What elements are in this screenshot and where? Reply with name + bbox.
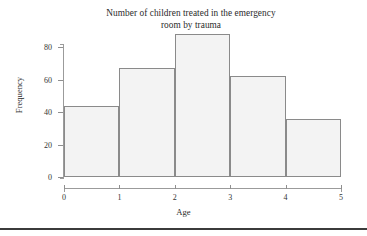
x-tick-label: 4 (276, 193, 296, 202)
y-tick-mark (58, 47, 63, 48)
x-tick-label: 3 (220, 193, 240, 202)
histogram-bar (64, 106, 119, 178)
histogram-bar (230, 76, 285, 177)
x-tick-mark (230, 185, 231, 189)
y-tick-label: 20 (28, 141, 52, 150)
y-tick-label: 80 (28, 43, 52, 52)
plot-area (64, 40, 341, 177)
x-axis-title: Age (0, 207, 367, 217)
histogram-bar (286, 119, 341, 178)
page-bottom-rule (0, 228, 367, 230)
y-tick-label: 60 (28, 76, 52, 85)
x-tick-mark (286, 185, 287, 189)
x-tick-label: 1 (109, 193, 129, 202)
x-tick-mark (119, 185, 120, 189)
x-tick-mark (64, 185, 65, 189)
y-tick-mark (58, 112, 63, 113)
x-tick-label: 2 (165, 193, 185, 202)
histogram-bar (119, 68, 174, 177)
x-tick-mark (175, 185, 176, 189)
x-tick-label: 0 (54, 193, 74, 202)
y-tick-label: 0 (28, 173, 52, 182)
y-tick-mark (58, 177, 63, 178)
y-tick-label: 40 (28, 108, 52, 117)
y-tick-mark (58, 145, 63, 146)
y-axis-title: Frequency (14, 50, 24, 140)
x-tick-mark (341, 185, 342, 189)
histogram-figure: Number of children treated in the emerge… (0, 0, 367, 236)
x-tick-label: 5 (331, 193, 351, 202)
y-tick-mark (58, 80, 63, 81)
x-axis-line (64, 188, 342, 189)
histogram-bar (175, 34, 230, 177)
